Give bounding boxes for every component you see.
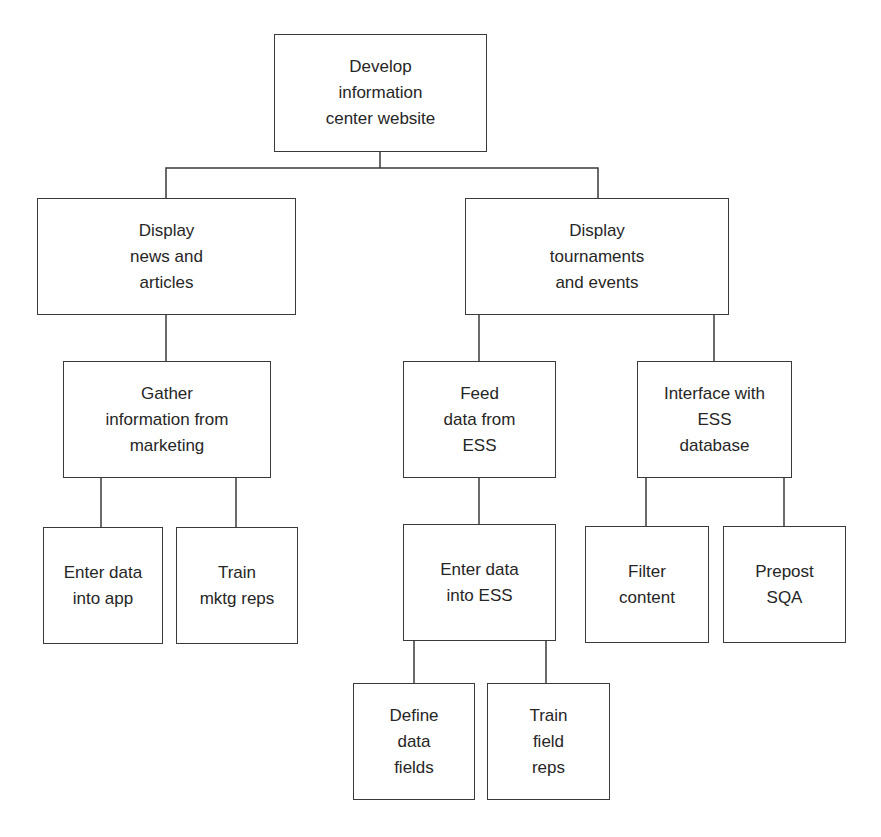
node-train-field-reps: Train field reps	[487, 683, 610, 800]
node-label: Enter data into app	[64, 560, 142, 612]
node-feed-data-from-ess: Feed data from ESS	[403, 361, 556, 478]
node-enter-data-into-app: Enter data into app	[43, 527, 163, 644]
node-label: Feed data from ESS	[444, 381, 516, 459]
connector-line	[166, 168, 598, 198]
node-label: Enter data into ESS	[440, 557, 518, 609]
node-filter-content: Filter content	[585, 526, 709, 643]
node-label: Display news and articles	[130, 218, 203, 296]
node-label: Filter content	[619, 559, 675, 611]
wbs-diagram: Develop information center website Displ…	[0, 0, 881, 837]
node-define-data-fields: Define data fields	[353, 683, 475, 800]
node-interface-with-ess-database: Interface with ESS database	[637, 361, 792, 478]
node-label: Train mktg reps	[200, 560, 275, 612]
node-train-mktg-reps: Train mktg reps	[176, 527, 298, 644]
node-gather-information-from-marketing: Gather information from marketing	[63, 361, 271, 478]
node-display-news-and-articles: Display news and articles	[37, 198, 296, 315]
node-display-tournaments-and-events: Display tournaments and events	[465, 198, 729, 315]
node-develop-information-center-website: Develop information center website	[274, 34, 487, 152]
node-label: Define data fields	[389, 703, 438, 781]
node-label: Gather information from marketing	[106, 381, 229, 459]
node-label: Prepost SQA	[755, 559, 814, 611]
node-enter-data-into-ess: Enter data into ESS	[403, 524, 556, 641]
node-label: Display tournaments and events	[550, 218, 645, 296]
node-label: Develop information center website	[326, 54, 436, 132]
node-label: Train field reps	[529, 703, 567, 781]
node-prepost-sqa: Prepost SQA	[723, 526, 846, 643]
node-label: Interface with ESS database	[664, 381, 765, 459]
